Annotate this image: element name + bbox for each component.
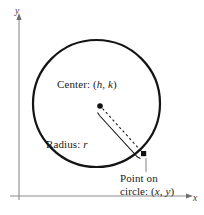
center-label: Center: (h, k): [57, 78, 117, 91]
center-label-suffix: ): [113, 78, 117, 90]
radius-label-prefix: Radius:: [46, 138, 83, 150]
point-label-line1: Point on: [120, 172, 174, 185]
center-label-prefix: Center: (: [57, 78, 97, 90]
radius-bracket: [98, 113, 141, 159]
point-on-circle-label: Point on circle: (x, y): [120, 172, 174, 197]
point-on-circle-marker: [141, 151, 146, 156]
radius-dashed-line: [103, 109, 143, 153]
y-axis: [16, 13, 21, 200]
x-axis-label: x: [193, 193, 197, 203]
point-label-line2: circle: (x, y): [120, 185, 174, 198]
circle-diagram: Center: (h, k) Radius: r Point on circle…: [0, 0, 204, 215]
center-point-dot: [97, 103, 103, 109]
radius-label: Radius: r: [46, 138, 88, 151]
point-label-prefix: circle: (: [120, 185, 155, 197]
y-axis-label: y: [15, 6, 19, 16]
radius-label-symbol: r: [83, 138, 87, 150]
point-label-suffix: ): [170, 185, 174, 197]
